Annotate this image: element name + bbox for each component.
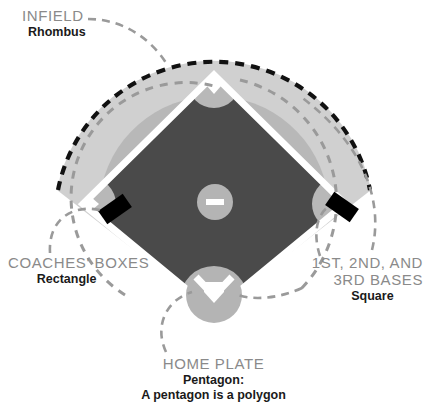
field-graphic <box>0 0 427 416</box>
label-infield: INFIELD Rhombus <box>22 8 86 40</box>
home-plate-group <box>186 267 242 323</box>
pitchers-mound-group <box>197 184 233 220</box>
leader-line-infield <box>88 19 168 66</box>
label-bases: 1ST, 2ND, AND 3RD BASES Square <box>312 255 423 304</box>
label-home-plate: HOME PLATE Pentagon: A pentagon is a pol… <box>0 356 427 404</box>
baseball-field-diagram: INFIELD Rhombus COACHES' BOXES Rectangle… <box>0 0 427 416</box>
label-coaches-boxes-subtitle: Rectangle <box>8 272 149 288</box>
label-bases-title-line2: 3RD BASES <box>312 272 423 289</box>
label-coaches-boxes-title: COACHES' BOXES <box>8 255 149 272</box>
pitchers-rubber <box>206 199 224 205</box>
label-home-plate-subtitle-line1: Pentagon: <box>0 373 427 389</box>
label-home-plate-title: HOME PLATE <box>0 356 427 373</box>
label-bases-title-line1: 1ST, 2ND, AND <box>312 255 423 272</box>
label-home-plate-subtitle-line2: A pentagon is a polygon <box>0 388 427 404</box>
label-coaches-boxes: COACHES' BOXES Rectangle <box>8 255 149 287</box>
label-infield-subtitle: Rhombus <box>22 25 86 41</box>
label-bases-subtitle: Square <box>312 289 423 305</box>
label-infield-title: INFIELD <box>22 8 86 25</box>
